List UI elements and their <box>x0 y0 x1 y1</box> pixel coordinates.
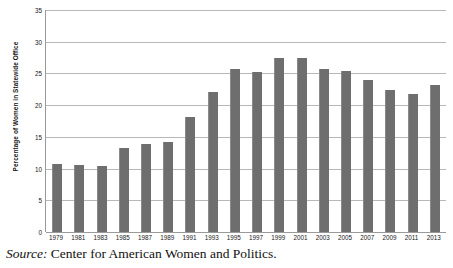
y-axis-tick-label: 30 <box>20 38 42 45</box>
bar[interactable] <box>385 90 395 232</box>
bar[interactable] <box>341 71 351 232</box>
bar-slot <box>246 10 268 232</box>
bar-slot <box>335 10 357 232</box>
x-axis-tick-label: 2011 <box>401 234 423 248</box>
y-axis-tick-label: 25 <box>20 70 42 77</box>
bar-slot <box>379 10 401 232</box>
bar[interactable] <box>408 94 418 232</box>
bar-slot <box>46 10 68 232</box>
bar-slot <box>179 10 201 232</box>
y-axis-tick-labels: 35302520151050 <box>20 0 42 240</box>
x-axis-tick-label: 2009 <box>378 234 400 248</box>
bar-slot <box>357 10 379 232</box>
bar-slot <box>113 10 135 232</box>
x-axis-tick-label: 2001 <box>289 234 311 248</box>
x-axis-tick-label: 2005 <box>334 234 356 248</box>
bar[interactable] <box>208 92 218 232</box>
bar-slot <box>224 10 246 232</box>
y-axis-tick-label: 5 <box>20 197 42 204</box>
bar-slot <box>424 10 446 232</box>
bar[interactable] <box>185 117 195 232</box>
bar[interactable] <box>97 166 107 232</box>
bar[interactable] <box>430 85 440 232</box>
y-axis-tick-label: 20 <box>20 102 42 109</box>
y-axis-tick-label: 10 <box>20 165 42 172</box>
bar[interactable] <box>363 80 373 232</box>
bar-slot <box>402 10 424 232</box>
y-axis-tick-label: 0 <box>20 229 42 236</box>
bar-slot <box>157 10 179 232</box>
bar-slot <box>313 10 335 232</box>
bar[interactable] <box>297 58 307 232</box>
x-axis-tick-label: 2007 <box>356 234 378 248</box>
source-label: Source: <box>6 246 47 261</box>
bar-slot <box>268 10 290 232</box>
y-axis-tick-label: 35 <box>20 7 42 14</box>
bar[interactable] <box>119 148 129 232</box>
x-axis-tick-label: 2003 <box>312 234 334 248</box>
bar[interactable] <box>252 72 262 232</box>
bar[interactable] <box>163 142 173 232</box>
bar[interactable] <box>74 165 84 232</box>
source-caption: Source: Center for American Women and Po… <box>6 246 277 262</box>
plot-area <box>45 10 446 232</box>
x-axis-tick-label: 2013 <box>423 234 445 248</box>
bar-slot <box>202 10 224 232</box>
bar-slot <box>90 10 112 232</box>
bar[interactable] <box>230 69 240 232</box>
bar[interactable] <box>141 144 151 232</box>
gridline <box>46 232 446 233</box>
bar[interactable] <box>52 164 62 232</box>
bar-series <box>46 10 446 232</box>
y-axis-title: Percentage of Women in Statewide Office <box>12 0 19 215</box>
bar-chart: Percentage of Women in Statewide Office … <box>0 0 453 240</box>
bar-slot <box>68 10 90 232</box>
y-axis-tick-label: 15 <box>20 133 42 140</box>
bar-slot <box>135 10 157 232</box>
figure: Percentage of Women in Statewide Office … <box>0 0 453 268</box>
bar[interactable] <box>319 69 329 232</box>
source-text: Center for American Women and Politics. <box>47 246 276 261</box>
bar-slot <box>290 10 312 232</box>
bar[interactable] <box>274 58 284 232</box>
